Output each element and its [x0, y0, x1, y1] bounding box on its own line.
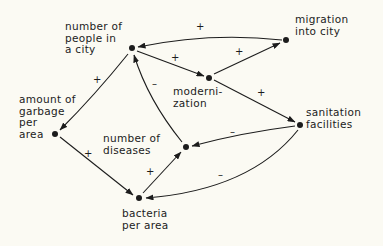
node-dot-people — [129, 45, 135, 51]
node-dot-modernization — [206, 75, 212, 81]
label-diseases: number of diseases — [103, 133, 160, 156]
sign-people-garbage: + — [93, 75, 101, 85]
sign-sanitation-diseases: – — [230, 127, 235, 137]
sign-migration-people: + — [196, 22, 204, 32]
edge-modernization-to-migration — [214, 43, 280, 74]
sign-bacteria-diseases: + — [146, 167, 154, 177]
label-bacteria: bacteria per area — [122, 208, 169, 231]
node-dot-diseases — [183, 144, 189, 150]
sign-sanitation-bacteria: – — [218, 170, 223, 180]
label-garbage: amount of garbage per area — [19, 94, 76, 140]
node-dot-sanitation — [297, 122, 303, 128]
edge-modernization-to-sanitation — [214, 80, 295, 122]
sign-modernization-migration: + — [235, 47, 243, 57]
label-sanitation: sanitation facilities — [306, 107, 361, 130]
label-people: number of people in a city — [65, 21, 122, 56]
label-migration: migration into city — [295, 14, 348, 37]
edge-sanitation-to-diseases — [192, 126, 295, 146]
sign-people-modernization: + — [171, 53, 179, 63]
sign-diseases-people: – — [152, 79, 157, 89]
edge-migration-to-people — [138, 37, 282, 47]
node-dot-bacteria — [136, 195, 142, 201]
node-dot-migration — [283, 37, 289, 43]
edge-sanitation-to-bacteria — [146, 130, 298, 198]
sign-garbage-bacteria: + — [84, 149, 92, 159]
sign-modernization-sanitation: + — [257, 88, 265, 98]
label-modernization: moderni- zation — [173, 86, 223, 109]
